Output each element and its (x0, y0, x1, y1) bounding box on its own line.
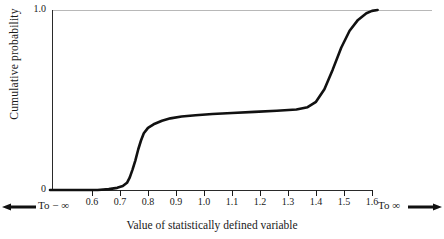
y-axis-tick-label-top: 1.0 (16, 3, 46, 14)
x-axis-right-end-label: To ∞ (378, 199, 400, 211)
x-axis-title: Value of statistically defined variable (52, 219, 372, 231)
y-axis-tick-label-bottom: 0 (16, 183, 46, 194)
x-axis-left-end-label: To − ∞ (38, 199, 69, 211)
x-axis-tick-label: 0.8 (135, 196, 161, 207)
x-axis-tick-label: 1.1 (219, 196, 245, 207)
x-axis-tick-label: 0.7 (107, 196, 133, 207)
arrow-right-icon (408, 203, 442, 211)
y-axis-line (52, 10, 53, 191)
x-axis-tick-label: 0.9 (163, 196, 189, 207)
plot-top-rule (52, 10, 432, 11)
x-axis-tick-label: 1.5 (331, 196, 357, 207)
x-axis-tick-label: 1.0 (191, 196, 217, 207)
x-axis-tick-label: 1.2 (247, 196, 273, 207)
x-axis-line (52, 190, 372, 191)
x-axis-tick-label: 1.4 (303, 196, 329, 207)
chart-figure: Cumulative probability 1.0 0 0.60.70.80.… (0, 0, 444, 239)
y-axis-title: Cumulative probability (8, 0, 28, 144)
x-axis-tick-label: 1.3 (275, 196, 301, 207)
arrow-left-icon (2, 203, 36, 211)
x-axis-tick-label: 0.6 (79, 196, 105, 207)
